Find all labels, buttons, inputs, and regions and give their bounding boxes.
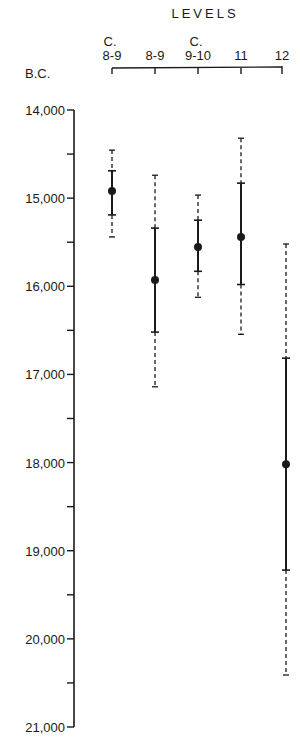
y-tick-label: 14,000 — [25, 103, 65, 118]
error-bar-2 — [151, 175, 159, 387]
data-point — [282, 460, 290, 468]
level-label: 9-10 — [185, 48, 211, 63]
level-prefix-label: C. — [104, 34, 117, 49]
error-bar-5 — [282, 244, 290, 675]
data-point — [151, 276, 159, 284]
bracket-line — [112, 67, 282, 68]
y-tick-label: 18,000 — [25, 456, 65, 471]
level-label: 8-9 — [103, 48, 122, 63]
y-tick-label: 20,000 — [25, 632, 65, 647]
chart-title: LEVELS — [171, 6, 238, 21]
y-tick-label: 17,000 — [25, 367, 65, 382]
y-tick-label: 15,000 — [25, 191, 65, 206]
y-axis-unit-label: B.C. — [25, 66, 50, 81]
data-point — [194, 243, 202, 251]
level-bracket-axis: 8-9C.8-99-10C.1112 — [103, 34, 290, 74]
data-point — [237, 233, 245, 241]
error-bar-chart: LEVELS B.C. 8-9C.8-99-10C.1112 14,00015,… — [0, 0, 300, 752]
error-bar-3 — [194, 195, 202, 297]
error-bar-1 — [108, 150, 116, 237]
level-prefix-label: C. — [190, 34, 203, 49]
y-tick-label: 16,000 — [25, 279, 65, 294]
level-label: 12 — [275, 48, 289, 63]
y-tick-label: 19,000 — [25, 544, 65, 559]
error-bars — [108, 138, 290, 675]
data-point — [108, 187, 116, 195]
error-bar-4 — [237, 138, 245, 334]
level-label: 8-9 — [146, 48, 165, 63]
y-tick-label: 21,000 — [25, 720, 65, 735]
level-label: 11 — [234, 48, 248, 63]
y-axis: 14,00015,00016,00017,00018,00019,00020,0… — [25, 103, 74, 735]
